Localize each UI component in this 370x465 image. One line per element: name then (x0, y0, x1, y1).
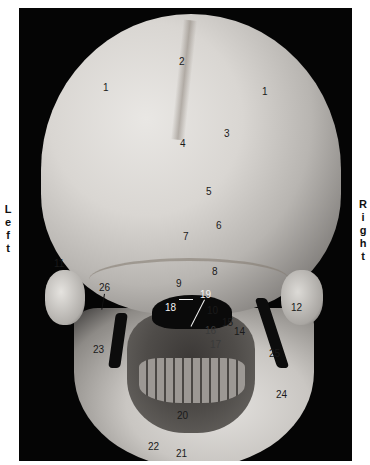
structure-label-1a: 1 (103, 82, 109, 93)
letter: g (356, 224, 370, 237)
letter: f (1, 229, 15, 242)
letter: R (356, 198, 370, 211)
orientation-label-left: L e f t (1, 203, 15, 255)
structure-label-20: 20 (177, 410, 188, 421)
structure-label-23: 23 (93, 344, 104, 355)
structure-label-12: 12 (291, 302, 302, 313)
structure-label-9: 9 (176, 278, 182, 289)
letter: i (356, 211, 370, 224)
structure-label-22: 22 (148, 441, 159, 452)
teeth (139, 358, 245, 403)
structure-label-8: 8 (212, 266, 218, 277)
letter: t (356, 250, 370, 263)
letter: t (1, 242, 15, 255)
structure-label-1b: 1 (262, 86, 268, 97)
structure-label-7: 7 (183, 231, 189, 242)
structure-label-19: 19 (200, 289, 211, 300)
structure-label-2: 2 (179, 56, 185, 67)
letter: h (356, 237, 370, 250)
structure-label-10: 10 (207, 305, 218, 316)
structure-label-24: 24 (276, 389, 287, 400)
leader-line-18 (179, 299, 193, 300)
structure-label-4: 4 (180, 138, 186, 149)
structure-label-5: 5 (206, 186, 212, 197)
structure-label-18: 18 (165, 302, 176, 313)
structure-label-3: 3 (224, 128, 230, 139)
mastoid-process-left (45, 270, 85, 325)
structure-label-15: 15 (222, 317, 233, 328)
structure-label-26: 26 (99, 282, 110, 293)
skull-photograph: 1123456789101112141516171819202122232425… (19, 8, 352, 461)
structure-label-16: 16 (205, 325, 216, 336)
letter: e (1, 216, 15, 229)
structure-label-11: 11 (54, 258, 64, 269)
structure-label-6: 6 (216, 220, 222, 231)
structure-label-17: 17 (210, 339, 221, 350)
structure-label-25: 25 (269, 348, 280, 359)
mastoid-process-right (281, 270, 323, 325)
structure-label-14: 14 (234, 326, 245, 337)
structure-label-21: 21 (176, 448, 187, 459)
letter: L (1, 203, 15, 216)
orientation-label-right: R i g h t (356, 198, 370, 263)
